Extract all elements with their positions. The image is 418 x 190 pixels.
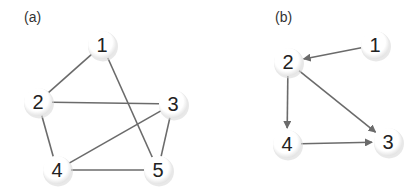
node-a-3: 3 bbox=[159, 90, 189, 121]
node-b-2: 2 bbox=[274, 48, 304, 79]
edge-a-2-3 bbox=[52, 102, 159, 104]
node-label: 3 bbox=[167, 93, 178, 115]
node-label: 2 bbox=[32, 91, 43, 113]
node-label: 3 bbox=[382, 131, 393, 153]
node-label: 4 bbox=[281, 133, 292, 155]
edge-a-3-4 bbox=[69, 111, 161, 163]
edge-b-2-3 bbox=[299, 71, 376, 132]
edge-b-4-3 bbox=[301, 142, 372, 143]
node-label: 1 bbox=[369, 34, 380, 56]
edge-b-1-2 bbox=[304, 48, 362, 59]
edge-a-1-5 bbox=[108, 58, 153, 157]
node-a-5: 5 bbox=[144, 156, 174, 187]
edge-a-1-2 bbox=[48, 54, 91, 92]
node-a-4: 4 bbox=[43, 156, 73, 187]
node-label: 4 bbox=[51, 159, 62, 181]
node-label: 2 bbox=[282, 51, 293, 73]
graph-canvas: 123451234 bbox=[0, 0, 418, 190]
node-b-4: 4 bbox=[273, 130, 303, 161]
edges-layer bbox=[42, 48, 376, 170]
node-b-1: 1 bbox=[361, 31, 391, 62]
edge-a-2-4 bbox=[42, 115, 53, 156]
node-a-1: 1 bbox=[88, 31, 118, 62]
node-label: 5 bbox=[152, 159, 163, 181]
node-b-3: 3 bbox=[374, 128, 404, 159]
node-label: 1 bbox=[96, 34, 107, 56]
edge-a-3-5 bbox=[161, 118, 170, 157]
edge-b-2-4 bbox=[287, 76, 288, 128]
